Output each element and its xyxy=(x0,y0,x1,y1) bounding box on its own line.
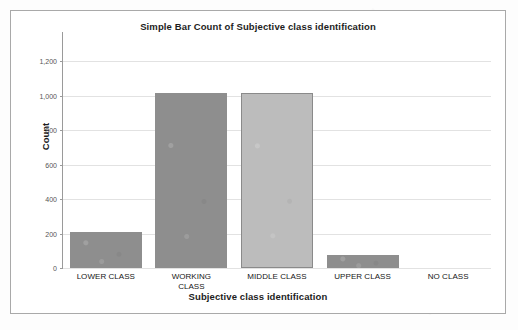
screenshot-page: Simple Bar Count of Subjective class ide… xyxy=(0,0,518,330)
y-axis-tick-mark xyxy=(60,268,63,269)
bar-working-class[interactable] xyxy=(155,93,227,268)
bar-slot xyxy=(405,44,491,268)
y-axis-title: Count xyxy=(40,107,51,167)
y-axis-tick-label: 400 xyxy=(45,196,57,203)
x-axis-category-labels: LOWER CLASSWORKINGCLASSMIDDLE CLASSUPPER… xyxy=(63,272,491,291)
y-axis-tick-label: 200 xyxy=(45,230,57,237)
category-label-middle-class: MIDDLE CLASS xyxy=(234,272,320,291)
y-axis-tick-label: 800 xyxy=(45,127,57,134)
category-label-working-class: WORKINGCLASS xyxy=(149,272,235,291)
bar-slot xyxy=(320,44,406,268)
x-axis-title: Subjective class identification xyxy=(11,291,505,302)
category-label-upper-class: UPPER CLASS xyxy=(320,272,406,291)
y-axis-tick-label: 0 xyxy=(53,265,57,272)
bar-upper-class[interactable] xyxy=(327,255,399,268)
y-axis-tick-label: 600 xyxy=(45,161,57,168)
chart-frame: Simple Bar Count of Subjective class ide… xyxy=(10,10,506,314)
category-label-lower-class: LOWER CLASS xyxy=(63,272,149,291)
bar-slot xyxy=(63,44,149,268)
y-axis-tick-label: 1,200 xyxy=(39,58,57,65)
chart-title: Simple Bar Count of Subjective class ide… xyxy=(11,21,505,32)
bar-series xyxy=(63,44,491,268)
bar-lower-class[interactable] xyxy=(70,232,142,268)
y-axis-tick-label: 1,000 xyxy=(39,92,57,99)
bar-slot xyxy=(149,44,235,268)
bar-middle-class[interactable] xyxy=(241,93,313,268)
category-label-no-class: NO CLASS xyxy=(405,272,491,291)
plot-area: 02004006008001,0001,200 xyxy=(63,44,491,268)
gridline xyxy=(63,268,491,269)
bar-slot xyxy=(234,44,320,268)
